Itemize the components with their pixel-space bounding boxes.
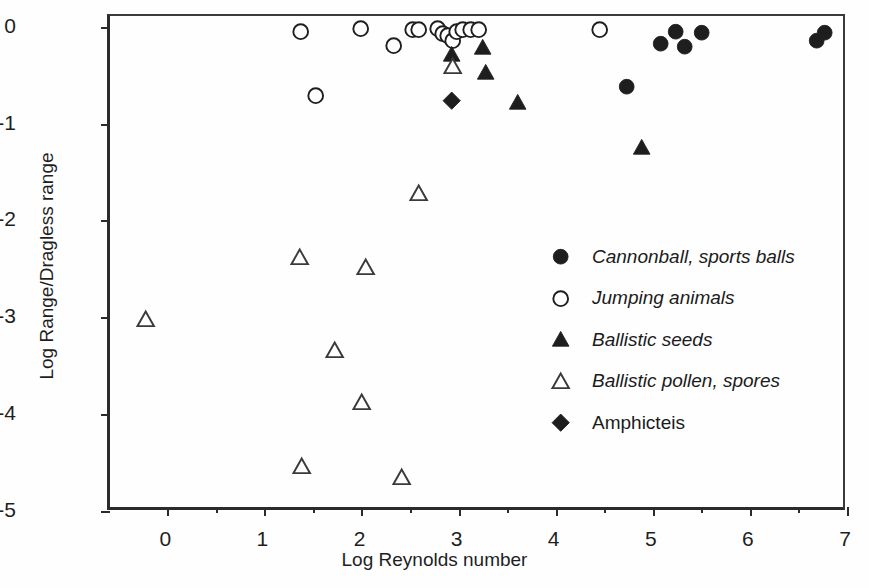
data-point-open-triangle — [354, 256, 377, 279]
legend-item[interactable]: Ballistic seeds — [548, 319, 795, 361]
data-point-open-triangle — [350, 391, 373, 414]
x-tick-label: 1 — [242, 528, 282, 549]
x-tick — [459, 507, 461, 516]
x-tick-minor — [313, 507, 315, 513]
x-tick-label: 5 — [631, 528, 671, 549]
legend-item[interactable]: Amphicteis — [548, 402, 795, 444]
x-tick — [167, 507, 169, 516]
data-point-filled-circle — [813, 21, 836, 44]
y-tick — [101, 511, 110, 513]
chart-legend: Cannonball, sports ballsJumping animalsB… — [548, 236, 795, 444]
legend-label: Cannonball, sports balls — [592, 246, 795, 268]
y-tick-label: -1 — [0, 112, 16, 133]
x-tick-minor — [798, 507, 800, 513]
legend-label: Amphicteis — [592, 412, 685, 434]
x-tick-label: 2 — [339, 528, 379, 549]
x-axis-title: Log Reynolds number — [0, 549, 869, 571]
data-point-filled-diamond — [440, 89, 463, 112]
x-tick — [847, 507, 849, 516]
data-point-open-triangle — [323, 339, 346, 362]
x-tick-label: 4 — [534, 528, 574, 549]
data-point-open-triangle — [441, 55, 464, 78]
y-tick-label: -3 — [0, 305, 16, 326]
legend-marker-open-triangle-icon — [548, 370, 574, 393]
x-tick-minor — [604, 507, 606, 513]
y-tick — [101, 124, 110, 126]
data-point-open-triangle — [288, 246, 311, 269]
x-tick-label: 0 — [145, 528, 185, 549]
y-tick-label: -4 — [0, 402, 16, 423]
x-tick-minor — [507, 507, 509, 513]
legend-item[interactable]: Jumping animals — [548, 278, 795, 320]
y-axis-title: Log Range/Dragless range — [36, 56, 58, 476]
data-point-open-circle — [349, 17, 372, 40]
scatter-plot-figure: 0-1-2-3-4-501234567 Log Reynolds number … — [0, 0, 869, 588]
x-tick — [361, 507, 363, 516]
x-tick — [556, 507, 558, 516]
x-tick — [750, 507, 752, 516]
data-point-filled-triangle — [471, 36, 494, 59]
legend-item[interactable]: Ballistic pollen, spores — [548, 361, 795, 403]
data-point-open-circle — [304, 84, 327, 107]
y-tick-label: -5 — [0, 499, 16, 520]
legend-marker-filled-circle-icon — [548, 245, 574, 268]
y-tick — [101, 317, 110, 319]
data-point-open-triangle — [407, 182, 430, 205]
y-tick-label: 0 — [0, 15, 16, 36]
x-tick-label: 7 — [825, 528, 865, 549]
y-tick-label: -2 — [0, 208, 16, 229]
y-tick — [101, 220, 110, 222]
x-tick-minor — [410, 507, 412, 513]
legend-label: Jumping animals — [592, 287, 735, 309]
x-tick — [264, 507, 266, 516]
data-point-filled-circle — [690, 21, 713, 44]
y-tick — [101, 27, 110, 29]
legend-label: Ballistic pollen, spores — [592, 370, 780, 392]
legend-marker-filled-diamond-icon — [548, 411, 574, 434]
x-tick-minor — [701, 507, 703, 513]
legend-marker-filled-triangle-icon — [548, 328, 574, 351]
data-point-open-circle — [588, 18, 611, 41]
x-tick-label: 6 — [728, 528, 768, 549]
data-point-filled-triangle — [474, 61, 497, 84]
y-tick — [101, 414, 110, 416]
data-point-open-circle — [289, 20, 312, 43]
data-point-filled-circle — [615, 75, 638, 98]
data-point-open-triangle — [390, 466, 413, 489]
data-point-filled-triangle — [630, 136, 653, 159]
x-tick-minor — [216, 507, 218, 513]
x-tick-label: 3 — [437, 528, 477, 549]
legend-marker-open-circle-icon — [548, 287, 574, 310]
legend-label: Ballistic seeds — [592, 329, 712, 351]
x-tick — [653, 507, 655, 516]
data-point-filled-triangle — [506, 91, 529, 114]
data-point-open-triangle — [134, 308, 157, 331]
legend-item[interactable]: Cannonball, sports balls — [548, 236, 795, 278]
data-point-open-triangle — [290, 455, 313, 478]
